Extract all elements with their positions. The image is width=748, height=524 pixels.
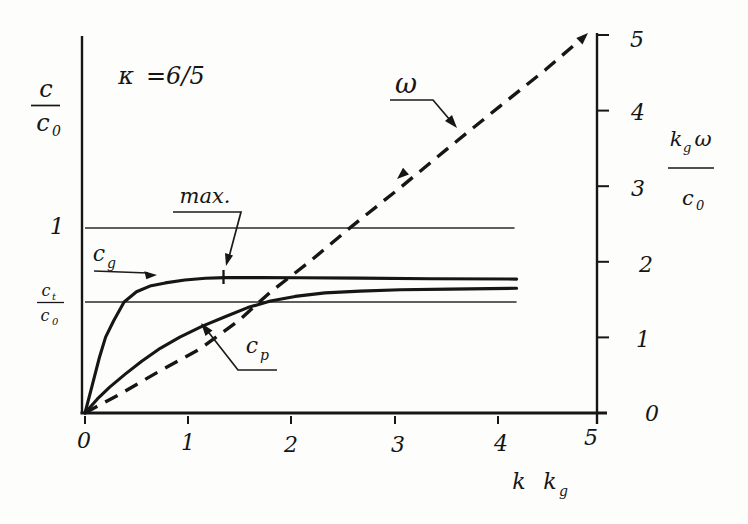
left-axis-tick-one: 1 [50,213,65,239]
ct-over-c0-label: c t c 0 [37,281,64,327]
kappa-annotation: κ =6/5 [117,62,205,90]
x-tick-3: 3 [391,432,405,457]
max-leader-line [173,212,241,257]
dispersion-chart: c c 0 κ =6/5 1 c t c 0 c g max. c p ω 0 … [0,0,748,524]
cg-label: c g [93,241,116,271]
kappa-value: =6/5 [146,62,205,90]
x-title-k: k [512,469,525,494]
cg-leader-arrowhead-icon [144,271,157,279]
cg-curve [85,278,517,413]
x-title-kg-sub: g [559,483,568,499]
right-title-c-sub: 0 [696,198,704,213]
cp-label-base: c [246,333,258,358]
right-axis-tick-labels: 5 4 3 2 1 0 [630,27,659,426]
x-axis-title: k k g [512,469,568,499]
right-axis-title: k g ω c 0 [668,127,714,213]
left-axis-title-denominator-sub: 0 [52,123,61,139]
max-label: max. [180,184,231,208]
omega-curve [85,38,583,413]
right-title-omega: ω [694,127,711,151]
right-tick-1: 1 [636,327,650,352]
ct-label-sub: t [52,291,57,302]
right-tick-5: 5 [630,27,644,52]
x-title-kg-base: k [543,469,556,494]
omega-leader-line [390,100,450,120]
cg-label-sub: g [107,255,116,271]
x-tick-2: 2 [283,432,298,457]
ct-label-base: c [42,281,51,300]
right-title-k: k [670,127,683,151]
x-tick-4: 4 [493,431,508,456]
cp-curve [85,288,517,413]
kappa-symbol: κ [117,62,134,90]
x-axis-tick-labels: 0 1 2 3 4 5 [77,425,598,457]
x-tick-5: 5 [584,425,598,450]
x-axis-ticks [85,416,498,424]
right-tick-0: 0 [645,401,659,426]
x-tick-0: 0 [77,428,91,453]
omega-curve-mid-arrowhead-icon [397,168,409,179]
right-tick-4: 4 [630,100,645,125]
dispersion-figure: c c 0 κ =6/5 1 c t c 0 c g max. c p ω 0 … [0,0,748,524]
right-tick-3: 3 [631,176,645,201]
max-leader-arrowhead-icon [225,253,233,266]
right-title-c: c [682,186,694,210]
left-axis-title-denominator: c [36,109,49,137]
cp-label-sub: p [260,347,269,363]
right-tick-2: 2 [638,252,653,277]
omega-label: ω [395,68,417,99]
ct-den-sub: 0 [52,316,59,327]
cg-label-base: c [93,241,105,266]
ct-den-base: c [41,306,50,325]
cp-label: c p [246,333,269,363]
x-tick-1: 1 [181,430,195,455]
left-axis-title-numerator: c [39,75,52,103]
cg-leader-line [94,271,148,273]
omega-curve-end-arrowhead-icon [576,33,588,45]
right-axis-ticks [597,35,609,337]
right-title-k-sub: g [683,140,691,155]
left-axis-title: c c 0 [31,75,61,139]
